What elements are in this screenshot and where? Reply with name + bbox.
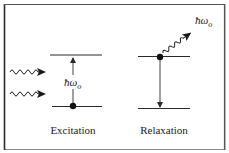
incoming-photon-icon xyxy=(10,92,44,96)
relaxation-caption: Relaxation xyxy=(140,124,188,136)
emitted-photon-icon xyxy=(162,32,191,54)
energy-level-diagram: ħωo Excitation ħωo Relaxation xyxy=(0,0,229,153)
excitation-caption: Excitation xyxy=(50,124,96,136)
relaxation-panel: ħωo Relaxation xyxy=(138,14,212,136)
incoming-photon-icon xyxy=(10,70,44,74)
electron-dot xyxy=(157,54,163,60)
excitation-panel: ħωo Excitation xyxy=(10,55,102,136)
frame-border xyxy=(4,4,225,150)
relaxation-energy-label: ħωo xyxy=(195,14,212,29)
electron-dot xyxy=(70,103,76,109)
